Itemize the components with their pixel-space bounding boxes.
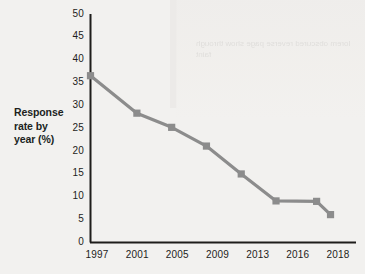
y-axis-tick-20: 20 [60,145,84,156]
x-axis-tick-2001: 2001 [117,249,157,260]
data-series-line [91,76,331,215]
data-point-marker [133,110,140,117]
data-point-marker [313,198,320,205]
y-axis-tick-30: 30 [60,99,84,110]
data-point-marker [203,142,210,149]
y-axis-tick-25: 25 [60,122,84,133]
data-point-marker [238,170,245,177]
chart-plot-area [0,0,365,274]
x-axis-tick-1997: 1997 [77,249,117,260]
x-axis-tick-2016: 2016 [278,249,318,260]
chart-axes [90,14,356,243]
y-axis-tick-40: 40 [60,53,84,64]
y-axis-tick-35: 35 [60,76,84,87]
data-point-marker [327,211,334,218]
data-point-marker [272,197,279,204]
x-axis-tick-2009: 2009 [198,249,238,260]
x-axis-tick-2018: 2018 [318,249,358,260]
x-axis-tick-2005: 2005 [157,249,197,260]
y-axis-tick-5: 5 [60,213,84,224]
chart-figure: lorem obscured reverse page show through… [0,0,365,274]
data-point-marker [168,124,175,131]
y-axis-tick-0: 0 [60,236,84,247]
y-axis-tick-10: 10 [60,190,84,201]
x-axis-tick-2013: 2013 [238,249,278,260]
data-series-markers [87,72,334,218]
y-axis-tick-15: 15 [60,167,84,178]
y-axis-tick-50: 50 [60,8,84,19]
data-point-marker [87,72,94,79]
y-axis-tick-45: 45 [60,30,84,41]
